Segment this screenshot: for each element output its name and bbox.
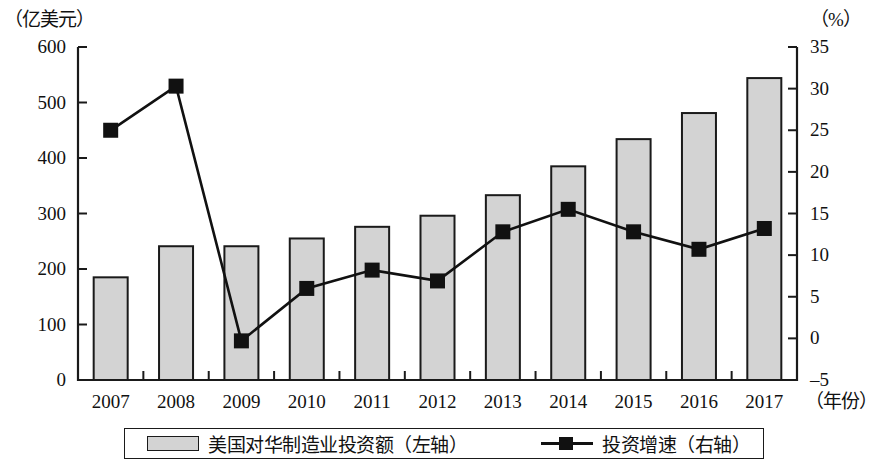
- chart-legend: 美国对华制造业投资额（左轴） 投资增速（右轴）: [124, 428, 764, 459]
- line-marker: [103, 123, 118, 138]
- line-marker: [691, 242, 706, 257]
- line-marker: [561, 202, 576, 217]
- chart-container: （亿美元） （%） 0100200300400500600 –505101520…: [0, 0, 886, 463]
- line-marker: [234, 333, 249, 348]
- line-marker: [365, 263, 380, 278]
- line-marker: [430, 273, 445, 288]
- line-marker: [495, 224, 510, 239]
- bar-series: [94, 78, 782, 380]
- plot-area: [0, 0, 886, 463]
- left-axis-ticks: [78, 47, 87, 380]
- bar: [290, 238, 324, 380]
- bar: [355, 227, 389, 380]
- bar: [551, 166, 585, 380]
- legend-line-marker-icon: [541, 436, 593, 451]
- line-marker: [169, 79, 184, 94]
- bar: [224, 246, 258, 380]
- line-marker: [299, 281, 314, 296]
- legend-label-growth-rate: 投资增速（右轴）: [602, 430, 750, 457]
- bar: [617, 139, 651, 380]
- bar: [159, 246, 193, 380]
- bar: [94, 277, 128, 380]
- legend-item-growth-rate: 投资增速（右轴）: [541, 430, 750, 457]
- line-marker: [626, 224, 641, 239]
- legend-bar-swatch-icon: [147, 436, 199, 451]
- legend-label-investment-amount: 美国对华制造业投资额（左轴）: [208, 430, 467, 457]
- legend-item-investment-amount: 美国对华制造业投资额（左轴）: [147, 430, 467, 457]
- bar: [421, 216, 455, 380]
- bar: [486, 195, 520, 380]
- line-marker: [757, 221, 772, 236]
- right-axis-ticks: [788, 47, 797, 380]
